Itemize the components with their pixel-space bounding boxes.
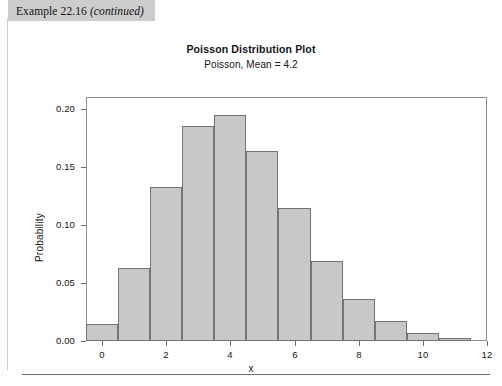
y-axis-tick-label: 0.20	[41, 103, 75, 114]
plot-area	[86, 97, 487, 341]
x-axis-tick	[230, 341, 231, 346]
x-axis-tick-label: 8	[347, 349, 371, 360]
bar	[86, 324, 118, 341]
x-axis-tick	[487, 341, 488, 346]
y-axis-tick	[81, 225, 86, 226]
bar	[214, 115, 246, 341]
x-axis-tick-label: 10	[411, 349, 435, 360]
x-axis-tick	[359, 341, 360, 346]
y-axis-tick-label: 0.10	[41, 219, 75, 230]
y-axis-tick-label: 0.05	[41, 277, 75, 288]
y-axis-tick-label: 0.00	[41, 335, 75, 346]
y-axis-tick	[81, 167, 86, 168]
x-axis-tick	[295, 341, 296, 346]
y-axis-tick	[81, 341, 86, 342]
x-axis-label: x	[0, 363, 502, 374]
x-axis-tick	[166, 341, 167, 346]
chart-title: Poisson Distribution Plot	[0, 43, 502, 55]
bar	[278, 208, 310, 341]
bar	[343, 299, 375, 341]
x-axis-tick-label: 0	[90, 349, 114, 360]
y-axis-tick	[81, 109, 86, 110]
bar	[311, 261, 343, 341]
bar	[182, 126, 214, 341]
bar	[375, 321, 407, 341]
x-axis-tick	[423, 341, 424, 346]
bar	[118, 268, 150, 341]
bar	[439, 338, 471, 341]
y-axis-tick	[81, 283, 86, 284]
x-axis-tick-label: 12	[475, 349, 499, 360]
x-axis-tick-label: 6	[283, 349, 307, 360]
chart-subtitle: Poisson, Mean = 4.2	[0, 59, 502, 70]
y-axis-tick-label: 0.15	[41, 161, 75, 172]
x-axis-tick-label: 2	[154, 349, 178, 360]
bar	[150, 187, 182, 341]
poisson-distribution-chart: Poisson Distribution Plot Poisson, Mean …	[0, 0, 502, 386]
x-axis-tick	[102, 341, 103, 346]
x-axis-tick-label: 4	[218, 349, 242, 360]
page-canvas: Example 22.16 (continued) Poisson Distri…	[0, 0, 502, 386]
bar	[407, 333, 439, 341]
bar	[246, 151, 278, 341]
